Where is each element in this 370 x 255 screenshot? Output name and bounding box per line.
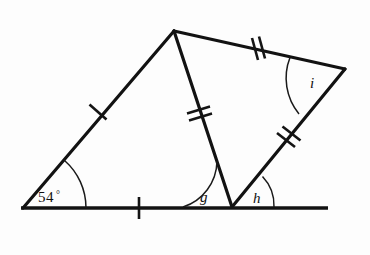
angle-label-h: h [253, 190, 261, 206]
geometry-figure: 54° g h i [0, 0, 370, 255]
angle-label-g: g [200, 189, 208, 205]
angle-arc-54 [65, 161, 87, 209]
tick-top-right-2 [259, 37, 265, 59]
segment-lower-right [232, 69, 345, 207]
degree-symbol: ° [56, 189, 61, 200]
segment-left-slant [23, 31, 174, 208]
angle-arc-h [263, 177, 275, 208]
angle-arc-i [286, 58, 299, 115]
segment-middle [174, 31, 232, 207]
angle-54-value: 54 [38, 189, 54, 205]
angle-label-54: 54° [38, 189, 61, 205]
angle-label-i: i [310, 75, 314, 91]
geometry-canvas: 54° g h i [0, 0, 370, 255]
